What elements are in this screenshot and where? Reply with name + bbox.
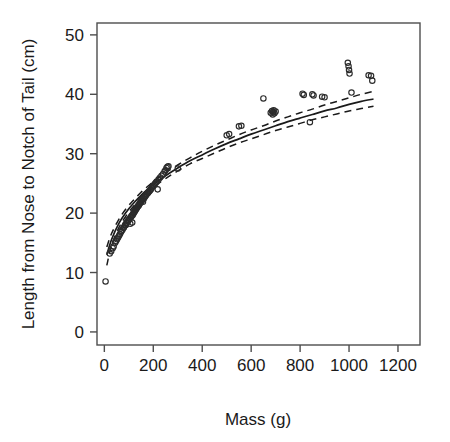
scatter-plot-figure: 01020304050 020040060080010001200 Mass (… — [0, 0, 450, 442]
x-tick-label: 600 — [237, 356, 265, 375]
x-tick-label: 1200 — [379, 356, 417, 375]
y-tick-label: 40 — [65, 85, 84, 104]
y-tick-label: 20 — [65, 204, 84, 223]
x-tick-label: 200 — [139, 356, 167, 375]
x-tick-label: 400 — [188, 356, 216, 375]
y-tick-label: 10 — [65, 264, 84, 283]
plot-canvas: 01020304050 020040060080010001200 Mass (… — [0, 0, 450, 442]
x-tick-label: 800 — [286, 356, 314, 375]
x-tick-label: 0 — [100, 356, 109, 375]
y-axis-title: Length from Nose to Notch of Tail (cm) — [19, 39, 38, 330]
y-tick-label: 30 — [65, 145, 84, 164]
x-tick-label: 1000 — [330, 356, 368, 375]
x-axis-title: Mass (g) — [225, 410, 291, 429]
y-tick-label: 0 — [75, 323, 84, 342]
y-tick-label: 50 — [65, 26, 84, 45]
